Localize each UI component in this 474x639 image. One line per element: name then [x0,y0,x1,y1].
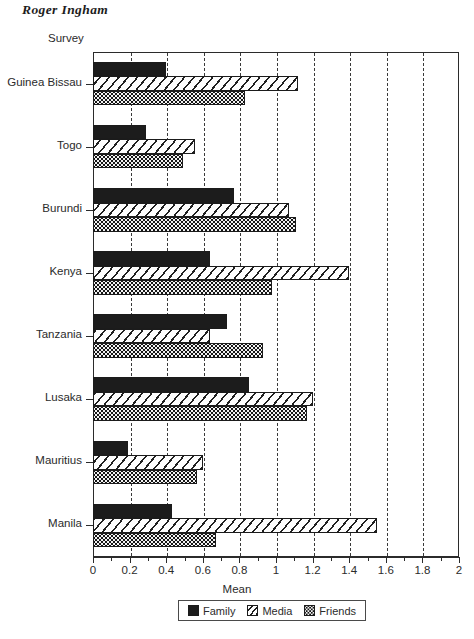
x-axis-minor-tick [368,557,369,561]
x-axis-label: 0.6 [195,564,211,576]
x-axis-minor-tick [111,557,112,561]
x-axis-tick [93,557,94,563]
x-axis-minor-tick [148,557,149,561]
gridline [204,53,205,556]
x-axis-label: 2 [456,564,462,576]
y-axis-label-togo: Togo [57,139,82,151]
x-axis-label: 0.2 [122,564,138,576]
dotted-swatch [304,605,315,616]
x-axis-label: 1.2 [305,564,321,576]
x-axis-minor-tick [441,557,442,561]
y-axis-tick [86,84,93,85]
x-axis-tick [239,557,240,563]
x-axis-label: 0.8 [231,564,247,576]
bar-friends-lusaka [93,406,307,421]
y-axis-label-mauritius: Mauritius [35,454,82,466]
x-axis-tick [349,557,350,563]
gridline [387,53,388,556]
x-axis-minor-tick [221,557,222,561]
gridline [423,53,424,556]
legend-label: Friends [319,605,356,617]
gridline [277,53,278,556]
x-axis-tick [166,557,167,563]
bar-media-mauritius [93,455,203,470]
gridline [314,53,315,556]
bar-media-guinea-bissau [93,76,298,91]
x-axis-minor-tick [404,557,405,561]
x-axis-label: 1.4 [341,564,357,576]
bar-family-guinea-bissau [93,62,166,77]
x-axis-label: 1 [273,564,279,576]
bar-family-lusaka [93,377,249,392]
bar-media-togo [93,139,195,154]
y-axis-tick [86,399,93,400]
x-axis-tick [386,557,387,563]
bar-media-manila [93,518,377,533]
x-axis-minor-tick [185,557,186,561]
y-axis-label-guinea-bissau: Guinea Bissau [7,76,82,88]
x-axis-label: 1.6 [378,564,394,576]
bar-family-manila [93,504,172,519]
legend-label: Media [262,605,292,617]
bar-friends-guinea-bissau [93,91,245,106]
y-axis-tick [86,273,93,274]
x-axis-label: 0 [90,564,96,576]
x-axis-tick [276,557,277,563]
y-axis-label-lusaka: Lusaka [45,391,82,403]
bar-media-tanzania [93,329,210,344]
hatched-swatch [247,605,258,616]
y-axis-label-kenya: Kenya [49,265,82,277]
legend-item-friends: Friends [304,605,356,617]
x-axis-tick [130,557,131,563]
y-axis-tick [86,525,93,526]
bar-friends-togo [93,154,183,169]
y-axis-label-tanzania: Tanzania [36,328,82,340]
bar-friends-manila [93,533,216,548]
x-axis-tick [422,557,423,563]
x-axis-minor-tick [294,557,295,561]
bar-family-mauritius [93,441,128,456]
solid-black-swatch [188,605,199,616]
bar-media-lusaka [93,392,313,407]
legend-item-family: Family [188,605,235,617]
y-axis-tick [86,147,93,148]
x-axis-tick [313,557,314,563]
chart-legend: FamilyMediaFriends [178,600,366,621]
bar-family-togo [93,125,146,140]
x-axis-title: Mean [0,583,474,595]
bar-friends-burundi [93,217,296,232]
x-axis-label: 0.4 [158,564,174,576]
bar-media-kenya [93,266,349,281]
bar-friends-tanzania [93,343,263,358]
bar-family-kenya [93,251,210,266]
y-axis-label-burundi: Burundi [42,202,82,214]
y-axis-tick [86,210,93,211]
gridline [350,53,351,556]
legend-label: Family [203,605,235,617]
legend-item-media: Media [247,605,292,617]
y-axis-label-manila: Manila [48,517,82,529]
x-axis-tick [459,557,460,563]
gridline [240,53,241,556]
x-axis-tick [203,557,204,563]
x-axis-label: 1.8 [414,564,430,576]
x-axis-minor-tick [258,557,259,561]
x-axis-minor-tick [331,557,332,561]
y-axis-tick [86,336,93,337]
bar-chart-figure: Survey Mean FamilyMediaFriends Guinea Bi… [0,0,474,639]
bar-friends-kenya [93,280,272,295]
bar-friends-mauritius [93,470,197,485]
bar-family-tanzania [93,314,227,329]
bar-media-burundi [93,203,289,218]
y-axis-tick [86,462,93,463]
y-axis-title: Survey [48,32,84,44]
bar-family-burundi [93,188,234,203]
